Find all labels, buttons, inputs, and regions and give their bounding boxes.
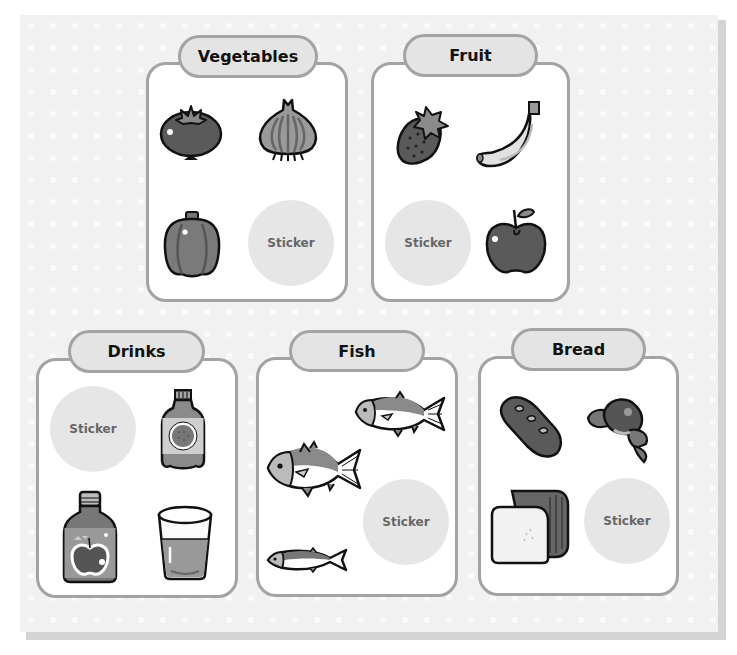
tomato-icon[interactable] xyxy=(158,100,224,160)
strawberry-icon[interactable] xyxy=(394,104,454,168)
apple-icon[interactable] xyxy=(484,206,548,276)
board-shadow-bottom xyxy=(26,632,726,640)
glass-of-juice-icon[interactable] xyxy=(157,505,213,581)
apple-juice-bottle-icon[interactable] xyxy=(62,490,118,584)
vegetables-title: Vegetables xyxy=(178,35,318,78)
fruit-title: Fruit xyxy=(403,34,538,77)
vegetables-sticker-slot[interactable]: Sticker xyxy=(248,200,334,286)
orange-juice-bottle-icon[interactable] xyxy=(160,388,206,470)
fish-title: Fish xyxy=(289,330,425,372)
fish-medium-icon[interactable] xyxy=(354,390,448,440)
fish-small-icon[interactable] xyxy=(266,544,350,574)
croissant-icon[interactable] xyxy=(584,396,656,460)
onion-icon[interactable] xyxy=(254,96,322,166)
fruit-sticker-slot[interactable]: Sticker xyxy=(385,200,471,286)
baguette-icon[interactable] xyxy=(497,394,565,462)
loaf-of-bread-icon[interactable] xyxy=(490,487,570,565)
drinks-title: Drinks xyxy=(68,330,205,373)
fish-sticker-slot[interactable]: Sticker xyxy=(363,479,449,565)
bell-pepper-icon[interactable] xyxy=(162,210,222,280)
banana-icon[interactable] xyxy=(474,100,544,172)
bread-sticker-slot[interactable]: Sticker xyxy=(584,478,670,564)
fish-large-icon[interactable] xyxy=(266,440,364,500)
bread-title: Bread xyxy=(511,328,646,371)
board-shadow-right xyxy=(718,20,726,640)
drinks-sticker-slot[interactable]: Sticker xyxy=(50,386,136,472)
